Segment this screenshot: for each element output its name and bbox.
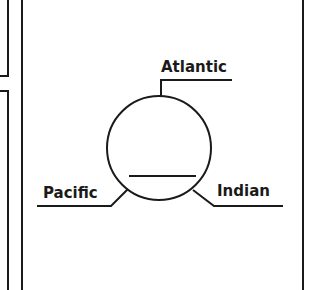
atlantic-label: Atlantic <box>161 58 227 76</box>
ocean-diagram: Atlantic Pacific Indian <box>0 0 321 290</box>
center-circle <box>107 96 211 200</box>
atlantic-leader-line <box>161 80 232 96</box>
indian-label: Indian <box>217 182 270 200</box>
pacific-label: Pacific <box>43 184 98 202</box>
left-panel-frame <box>0 0 303 290</box>
left-upper-box-edge <box>0 0 8 76</box>
left-lower-box-edge <box>0 91 8 290</box>
